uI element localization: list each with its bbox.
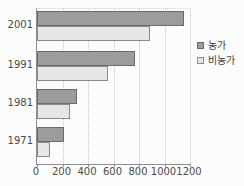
bar-2001-nonfarm [37, 26, 150, 41]
legend: 농가비농가 [197, 40, 235, 66]
y-axis-label-1981: 1981 [2, 97, 33, 109]
legend-label: 농가 [208, 40, 226, 51]
bar-1971-farm [37, 127, 64, 142]
bar-1991-farm [37, 51, 135, 66]
x-axis-label-0: 0 [33, 166, 39, 178]
x-axis-label-1200: 1200 [176, 166, 201, 178]
x-axis-label-800: 800 [128, 166, 147, 178]
legend-label: 비농가 [208, 55, 235, 66]
legend-swatch-icon [197, 57, 204, 64]
bar-1991-nonfarm [37, 66, 108, 81]
bar-group-2001 [37, 11, 184, 41]
y-axis-label-2001: 2001 [2, 19, 33, 31]
gridline-x-1200 [190, 9, 191, 164]
y-axis-label-1971: 1971 [2, 135, 33, 147]
bar-group-1991 [37, 51, 135, 81]
plot-area [36, 8, 190, 165]
bar-1981-nonfarm [37, 104, 70, 119]
bar-group-1981 [37, 89, 77, 119]
x-axis-label-600: 600 [103, 166, 122, 178]
legend-item-nonfarm: 비농가 [197, 55, 235, 66]
x-axis-label-400: 400 [77, 166, 96, 178]
bar-chart: 2001199119811971 020040060080010001200 농… [0, 0, 244, 186]
x-axis-label-200: 200 [52, 166, 71, 178]
x-axis-label-1000: 1000 [151, 166, 176, 178]
bar-2001-farm [37, 11, 184, 26]
legend-item-farm: 농가 [197, 40, 235, 51]
legend-swatch-icon [197, 42, 204, 49]
bar-1971-nonfarm [37, 142, 50, 157]
y-axis-label-1991: 1991 [2, 59, 33, 71]
bar-1981-farm [37, 89, 77, 104]
bar-group-1971 [37, 127, 64, 157]
